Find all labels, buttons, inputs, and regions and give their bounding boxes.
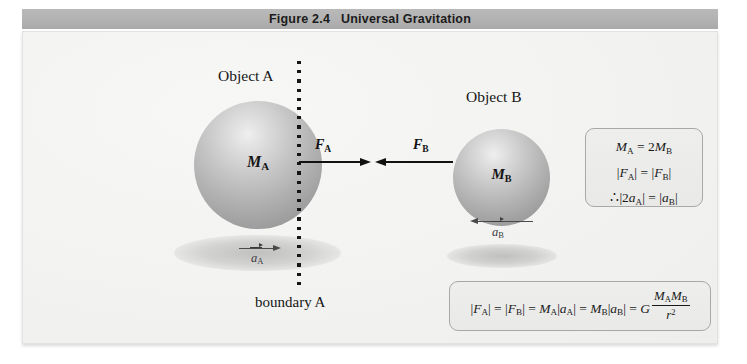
acceleration-label-b: aB: [492, 225, 504, 240]
gravitation-fraction: MAMBr2: [652, 289, 690, 324]
main-equation-text: |FA| = |FB| = MA|aA| = MB|aB| = GMAMBr2: [470, 289, 689, 324]
force-arrow-a-head: [360, 158, 371, 166]
relation-line-mass: MA = 2MB: [586, 136, 702, 162]
relation-line-force: |FA| = |FB|: [586, 162, 702, 188]
panel-background: Object A Object B MA MB boundary A FA: [23, 32, 717, 343]
object-a-label: Object A: [218, 67, 274, 85]
figure-title-text: Figure 2.4 Universal Gravitation: [269, 12, 471, 26]
acceleration-arrow-b-head: [470, 218, 478, 224]
force-arrow-a-shaft: [299, 161, 362, 163]
mass-label-b: MB: [453, 166, 550, 184]
figure-container: Figure 2.4 Universal Gravitation Object …: [0, 0, 747, 364]
acceleration-arrow-a-shaft: [239, 248, 275, 249]
figure-panel: Object A Object B MA MB boundary A FA: [22, 31, 718, 344]
figure-title-bar: Figure 2.4 Universal Gravitation: [22, 9, 718, 29]
shadow-object-b: [447, 244, 557, 268]
force-arrow-b-shaft: [386, 161, 453, 163]
acceleration-arrow-b-shaft: [478, 221, 533, 222]
relation-line-accel: ∴|2aA| = |aB|: [586, 187, 702, 213]
boundary-label: boundary A: [255, 294, 325, 311]
force-label-b: FB: [413, 137, 429, 154]
relations-equation-box: MA = 2MB |FA| = |FB| ∴|2aA| = |aB|: [585, 128, 703, 207]
force-label-a: FA: [315, 137, 331, 154]
sphere-object-b: MB: [453, 129, 550, 226]
force-arrow-b-head: [375, 158, 386, 166]
sphere-object-a: MA: [194, 101, 322, 229]
boundary-dotted-line: [297, 61, 301, 291]
object-b-label: Object B: [466, 88, 522, 106]
acceleration-label-a: aA: [251, 251, 263, 266]
acceleration-arrow-a-head: [273, 245, 281, 251]
main-equation-box: |FA| = |FB| = MA|aA| = MB|aB| = GMAMBr2: [449, 281, 711, 331]
